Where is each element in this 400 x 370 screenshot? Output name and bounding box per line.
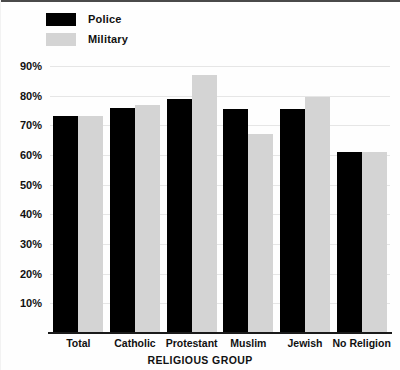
military-swatch-icon xyxy=(46,33,76,46)
bar-military-total xyxy=(78,116,103,333)
left-border-rule xyxy=(0,0,1,370)
bar-group xyxy=(277,66,334,333)
y-axis-tick-label: 40% xyxy=(6,208,42,220)
bar-military-catholic xyxy=(135,105,160,333)
bar-chart: Police Military 10%20%30%40%50%60%70%80%… xyxy=(0,0,400,370)
y-axis-tick-label: 60% xyxy=(6,149,42,161)
legend-item-police: Police xyxy=(46,11,196,27)
bar-police-protestant xyxy=(167,99,192,333)
bar-police-total xyxy=(53,116,78,333)
x-tick-catholic: Catholic xyxy=(114,337,155,349)
x-tick-no-religion: No Religion xyxy=(332,337,390,349)
x-axis-title: RELIGIOUS GROUP xyxy=(0,354,400,366)
y-axis-tick-label: 80% xyxy=(6,90,42,102)
bar-police-jewish xyxy=(280,109,305,333)
x-axis-tick-labels: TotalCatholicProtestantMuslimJewishNo Re… xyxy=(50,337,390,355)
legend-label-military: Military xyxy=(88,33,128,45)
top-border-rule xyxy=(0,0,400,2)
bar-group xyxy=(50,66,107,333)
bar-police-muslim xyxy=(223,109,248,333)
plot-area: 10%20%30%40%50%60%70%80%90% xyxy=(50,66,390,333)
y-axis-tick-label: 90% xyxy=(6,60,42,72)
legend-item-military: Military xyxy=(46,31,196,47)
x-tick-protestant: Protestant xyxy=(166,337,218,349)
x-tick-jewish: Jewish xyxy=(287,337,322,349)
bar-group xyxy=(163,66,220,333)
bar-military-no-religion xyxy=(362,152,387,333)
bar-military-muslim xyxy=(248,134,273,333)
y-axis-tick-label: 50% xyxy=(6,179,42,191)
bar-group xyxy=(107,66,164,333)
bar-group xyxy=(220,66,277,333)
x-tick-muslim: Muslim xyxy=(230,337,266,349)
chart-legend: Police Military xyxy=(46,11,196,51)
bar-groups xyxy=(50,66,390,333)
y-axis-tick-label: 30% xyxy=(6,238,42,250)
bar-police-no-religion xyxy=(337,152,362,333)
y-axis-tick-label: 20% xyxy=(6,268,42,280)
bar-military-jewish xyxy=(305,97,330,333)
legend-label-police: Police xyxy=(88,13,122,25)
y-axis-tick-label: 10% xyxy=(6,297,42,309)
police-swatch-icon xyxy=(46,13,76,26)
x-tick-total: Total xyxy=(66,337,90,349)
bar-military-protestant xyxy=(192,75,217,333)
bar-police-catholic xyxy=(110,108,135,333)
bar-group xyxy=(333,66,390,333)
y-axis-tick-label: 70% xyxy=(6,119,42,131)
x-axis-line xyxy=(48,332,392,334)
